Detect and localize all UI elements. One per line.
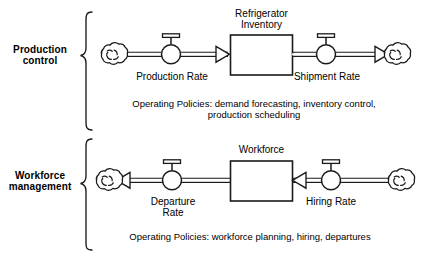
diagram-canvas: Production control Refrigerator Inventor… (0, 0, 421, 253)
rate-label-production-rate: Production Rate (131, 71, 213, 82)
section-title-line2: management (0, 181, 80, 192)
cloud-icon-hiring-source (388, 169, 414, 191)
flow-shipment-rate (292, 46, 389, 62)
valve-icon-departure-rate (163, 160, 182, 190)
section-title-line1: Production (0, 44, 80, 55)
valve-icon-hiring-rate (322, 160, 341, 190)
policies-line2: production scheduling (104, 110, 404, 121)
stock-label-line2: Inventory (214, 19, 309, 30)
cloud-icon-shipment-sink (384, 43, 410, 65)
valve-icon-shipment-rate (317, 34, 336, 64)
stock-label-workforce: Workforce (224, 144, 299, 155)
flow-hiring-rate (293, 172, 393, 188)
rate-label-departure-rate: Departure Rate (134, 196, 212, 218)
section-title-line1: Workforce (0, 170, 80, 181)
stock-label-line1: Refrigerator (214, 8, 309, 19)
section-title-production-control: Production control (0, 44, 80, 66)
valve-icon-production-rate (162, 34, 181, 64)
rate-label-line2: Rate (134, 207, 212, 218)
rate-label-line1: Departure (134, 196, 212, 207)
brace-production-control (81, 12, 93, 130)
section-title-line2: control (0, 55, 80, 66)
rate-label-hiring-rate: Hiring Rate (295, 196, 367, 207)
cloud-icon-production-source (101, 43, 127, 65)
stock-box-refrigerator-inventory (231, 35, 293, 75)
stock-label-refrigerator-inventory: Refrigerator Inventory (214, 8, 309, 30)
stock-box-workforce (231, 161, 293, 201)
section-title-workforce-management: Workforce management (0, 170, 80, 192)
rate-label-shipment-rate: Shipment Rate (288, 71, 366, 82)
policies-production-control: Operating Policies: demand forecasting, … (104, 99, 404, 120)
cloud-icon-departure-sink (96, 169, 122, 191)
policies-workforce-management: Operating Policies: workforce planning, … (90, 232, 410, 243)
